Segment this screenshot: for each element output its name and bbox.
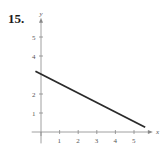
x-tick-label: 3 [95, 137, 99, 145]
x-tick-label: 1 [58, 137, 62, 145]
y-tick-label: 4 [32, 53, 36, 61]
x-tick-label: 5 [132, 137, 136, 145]
y-axis-arrow-icon [39, 18, 43, 23]
x-axis-arrow-icon [148, 130, 153, 134]
y-axis-label: y [39, 10, 44, 18]
data-line [35, 71, 145, 127]
y-tick-label: 1 [32, 110, 36, 118]
y-tick-label: 2 [32, 91, 36, 99]
line-chart: xy123451245 [0, 0, 161, 151]
x-axis-label: x [155, 128, 160, 136]
x-tick-label: 4 [113, 137, 117, 145]
y-tick-label: 5 [32, 34, 36, 42]
x-tick-label: 2 [76, 137, 80, 145]
